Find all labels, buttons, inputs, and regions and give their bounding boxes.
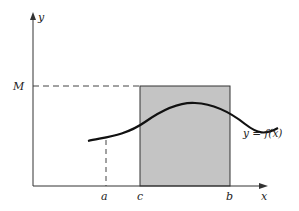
figure-canvas: y x M a c b y = f(x): [0, 0, 299, 211]
shaded-rectangle: [140, 86, 230, 186]
point-a-label: a: [101, 190, 108, 203]
y-axis-arrow-icon: [30, 12, 36, 20]
function-label: y = f(x): [242, 127, 282, 139]
point-b-label: b: [226, 190, 233, 203]
point-c-label: c: [137, 190, 143, 203]
max-label: M: [12, 80, 25, 93]
x-axis-label: x: [261, 190, 268, 203]
x-axis-arrow-icon: [259, 183, 268, 189]
y-axis-label: y: [37, 11, 45, 24]
